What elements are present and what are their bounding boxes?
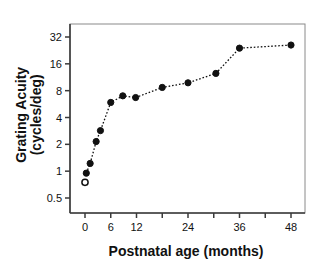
data-point	[93, 138, 99, 144]
plot-frame	[70, 24, 305, 213]
data-point	[288, 42, 294, 48]
y-tick-label: 4	[56, 112, 62, 124]
y-tick-label: 2	[56, 138, 62, 150]
data-point	[159, 84, 165, 90]
x-tick-label: 36	[233, 221, 245, 233]
data-point	[236, 45, 242, 51]
data-point	[120, 93, 126, 99]
x-tick-label: 24	[182, 221, 194, 233]
data-point	[87, 160, 93, 166]
data-point	[185, 80, 191, 86]
x-tick-label: 0	[82, 221, 88, 233]
y-tick-label: 1	[56, 165, 62, 177]
data-point	[108, 99, 114, 105]
data-point	[97, 128, 103, 134]
plot-area: 0.5124816320612243648	[0, 0, 322, 275]
y-tick-label: 16	[50, 58, 62, 70]
x-tick-label: 48	[285, 221, 297, 233]
x-tick-label: 12	[130, 221, 142, 233]
y-tick-label: 32	[50, 31, 62, 43]
x-tick-label: 6	[108, 221, 114, 233]
data-point	[133, 94, 139, 100]
data-point	[213, 70, 219, 76]
y-tick-label: 0.5	[47, 192, 62, 204]
y-tick-label: 8	[56, 85, 62, 97]
series-line	[86, 45, 291, 173]
data-point	[83, 170, 89, 176]
data-point-open	[82, 179, 88, 185]
figure: Grating Acuity (cycles/deg) Postnatal ag…	[0, 0, 322, 275]
